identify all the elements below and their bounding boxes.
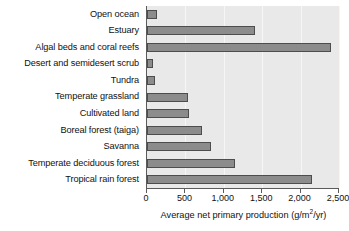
bar-row: [147, 122, 339, 139]
x-tick-label: 1,000: [212, 193, 235, 203]
category-label: Tropical rain forest: [0, 171, 142, 188]
category-label: Tundra: [0, 72, 142, 89]
x-tick-label: 2,000: [288, 193, 311, 203]
x-axis-title-pre: Average net primary production (g/m: [161, 210, 310, 220]
bar-row: [147, 89, 339, 106]
category-label: Desert and semidesert scrub: [0, 56, 142, 73]
bar-row: [147, 171, 339, 188]
bar: [147, 142, 211, 151]
bar-row: [147, 105, 339, 122]
bar-row: [147, 138, 339, 155]
bar-row: [147, 56, 339, 73]
x-axis-title: Average net primary production (g/m2/yr): [146, 210, 341, 220]
category-label: Savanna: [0, 138, 142, 155]
category-label: Algal beds and coral reefs: [0, 39, 142, 56]
bar: [147, 109, 189, 118]
x-axis-line: [146, 188, 339, 189]
bar: [147, 175, 312, 184]
x-tick-label: 2,500: [327, 193, 349, 203]
bar-row: [147, 23, 339, 40]
bar-series: [147, 6, 339, 188]
gridline: [339, 6, 340, 188]
plot-area: [146, 6, 339, 188]
bar: [147, 76, 155, 85]
bar-row: [147, 155, 339, 172]
x-tick-label: 500: [177, 193, 192, 203]
bar: [147, 43, 331, 52]
chart-figure: Open oceanEstuaryAlgal beds and coral re…: [0, 0, 349, 231]
bar: [147, 126, 202, 135]
bar: [147, 26, 255, 35]
bar-row: [147, 72, 339, 89]
x-tick-label: 0: [143, 193, 148, 203]
category-label: Estuary: [0, 23, 142, 40]
bar: [147, 93, 188, 102]
bar: [147, 10, 157, 19]
bar: [147, 59, 153, 68]
category-label: Open ocean: [0, 6, 142, 23]
x-axis-title-post: /yr): [313, 210, 326, 220]
bar: [147, 159, 235, 168]
category-label: Temperate deciduous forest: [0, 155, 142, 172]
bar-row: [147, 6, 339, 23]
x-tick-label: 1,500: [250, 193, 273, 203]
category-label: Cultivated land: [0, 105, 142, 122]
category-label: Boreal forest (taiga): [0, 122, 142, 139]
category-label: Temperate grassland: [0, 89, 142, 106]
category-axis-labels: Open oceanEstuaryAlgal beds and coral re…: [0, 6, 142, 188]
bar-row: [147, 39, 339, 56]
